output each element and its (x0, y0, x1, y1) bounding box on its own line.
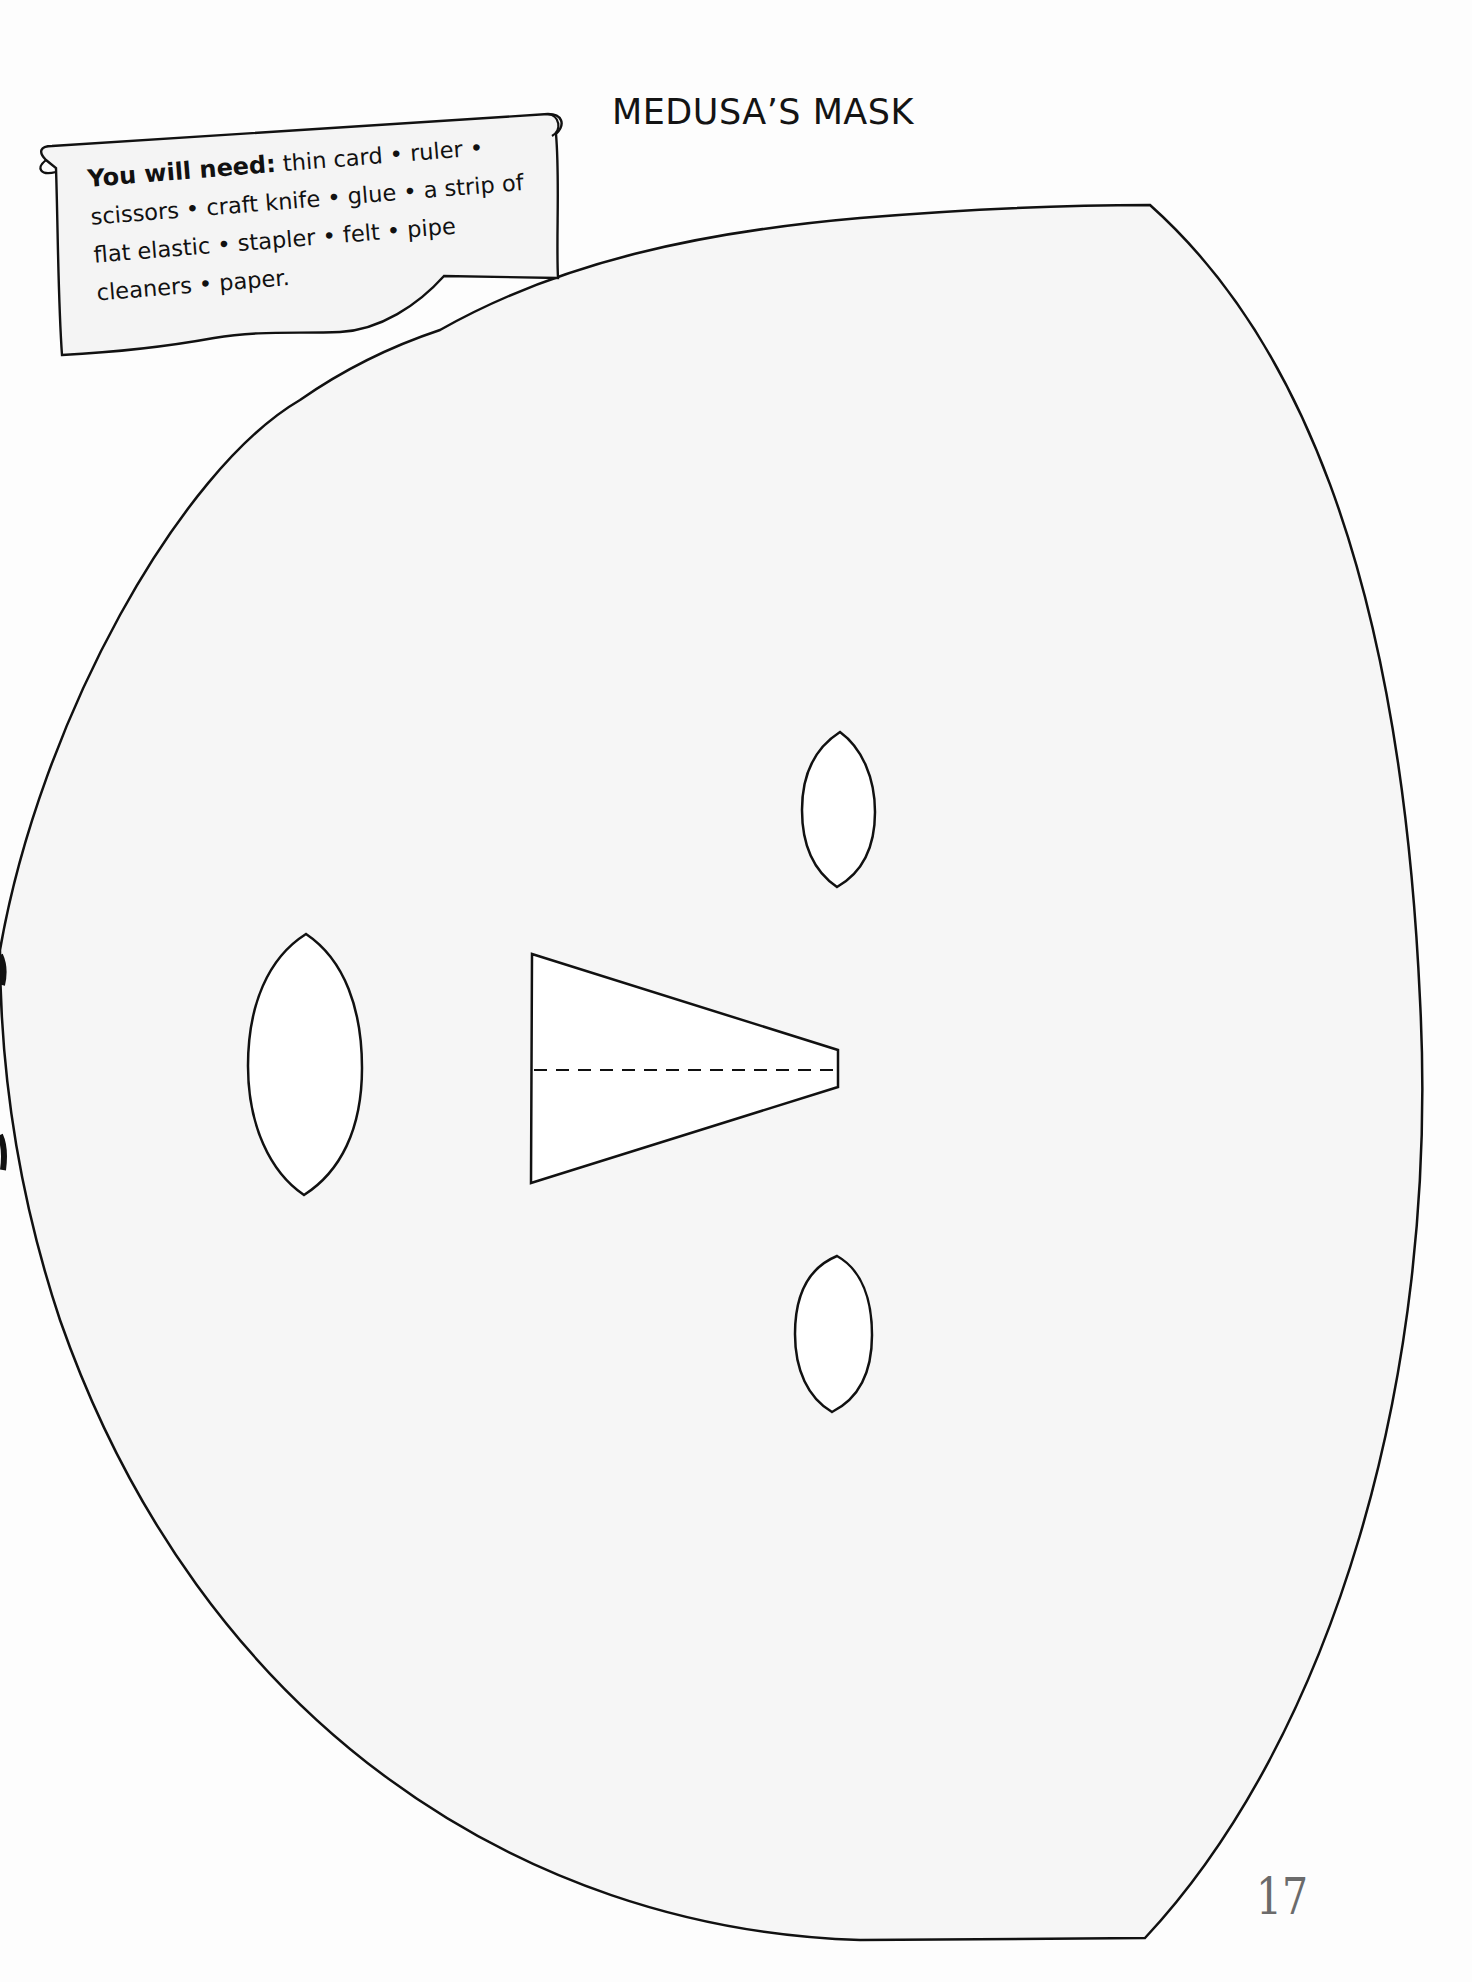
page-title: MEDUSA’S MASK (612, 92, 914, 132)
page-number: 17 (1256, 1868, 1308, 1926)
book-page: MEDUSA’S MASK You will need: thin card •… (0, 0, 1472, 1982)
